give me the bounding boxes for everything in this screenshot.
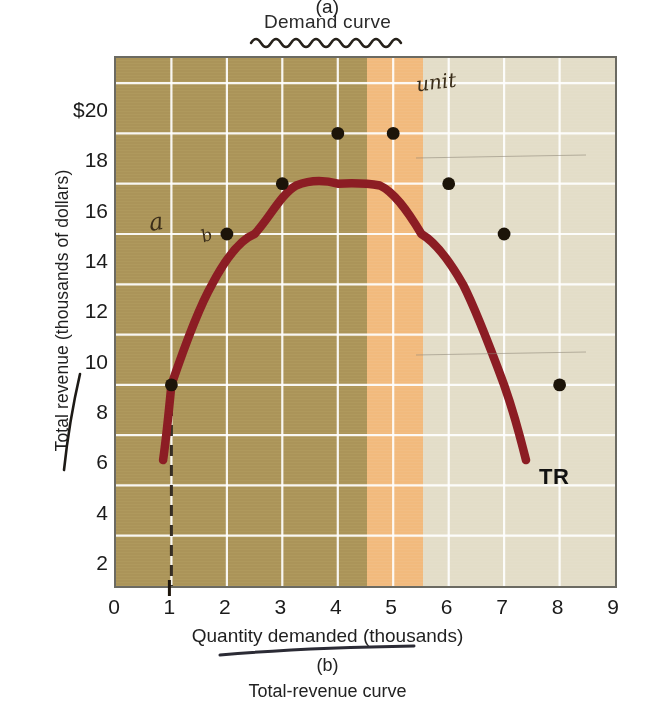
tr-series-label: TR <box>539 464 569 490</box>
data-point-e <box>387 127 400 140</box>
handwritten-pen-stroke <box>60 370 86 480</box>
data-point-d <box>331 127 344 140</box>
demand-curve-note: Demand curve <box>0 11 655 33</box>
data-point-h <box>553 379 566 392</box>
demand-curve-note-text: Demand curve <box>264 11 391 32</box>
x-axis-tick-mark-1 <box>114 580 613 602</box>
panel-b-caption: (b) <box>0 655 655 676</box>
squiggle-underline-icon <box>248 33 408 51</box>
data-point-g <box>498 228 511 241</box>
plot-area: unit a TR <box>114 56 617 588</box>
figure-root: (a) Demand curve <box>0 0 655 709</box>
figure-subtitle: Total-revenue curve <box>0 681 655 702</box>
data-point-f <box>442 177 455 190</box>
y-tick-2: 2 <box>36 551 108 575</box>
total-revenue-curve <box>163 181 526 460</box>
data-point-a <box>165 379 178 392</box>
y-tick-20: $20 <box>36 98 108 122</box>
data-point-c <box>276 177 289 190</box>
data-point-b <box>221 228 234 241</box>
chart-canvas <box>116 58 615 586</box>
y-tick-4: 4 <box>36 501 108 525</box>
handwritten-unit-annotation: unit <box>415 68 458 97</box>
gridlines-vertical <box>171 58 559 586</box>
